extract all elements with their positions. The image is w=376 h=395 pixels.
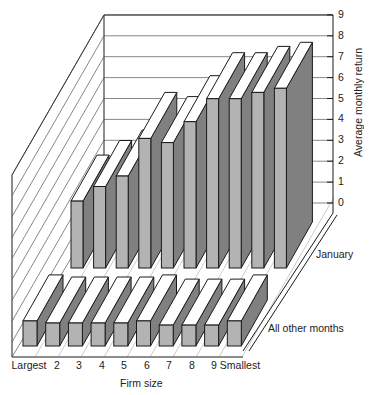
y-tick-label: 5 — [338, 92, 344, 104]
x-tick-label: 2 — [54, 359, 60, 371]
x-tick-label: 5 — [121, 359, 127, 371]
x-tick-label: 4 — [99, 359, 105, 371]
series-other-months-bars — [23, 275, 267, 346]
bar-chart-3d — [0, 0, 376, 395]
x-tick-label: 9 — [211, 359, 217, 371]
x-tick-label: Smallest — [220, 359, 260, 371]
y-tick-label: 6 — [338, 71, 344, 83]
y-tick-label: 1 — [338, 175, 344, 187]
y-tick-label: 0 — [338, 196, 344, 208]
y-axis-label: Average monthly return — [352, 48, 364, 157]
y-tick-label: 9 — [338, 8, 344, 20]
x-tick-label: 3 — [76, 359, 82, 371]
x-tick-label: 8 — [189, 359, 195, 371]
y-tick-label: 4 — [338, 112, 344, 124]
x-tick-label: Largest — [11, 359, 46, 371]
x-tick-label: 6 — [144, 359, 150, 371]
legend-january: January — [316, 248, 353, 260]
legend-all-other-months: All other months — [268, 322, 344, 334]
y-tick-label: 3 — [338, 133, 344, 145]
y-tick-label: 8 — [338, 29, 344, 41]
y-tick-label: 7 — [338, 50, 344, 62]
x-tick-label: 7 — [166, 359, 172, 371]
x-axis-label: Firm size — [120, 377, 163, 389]
y-tick-label: 2 — [338, 154, 344, 166]
